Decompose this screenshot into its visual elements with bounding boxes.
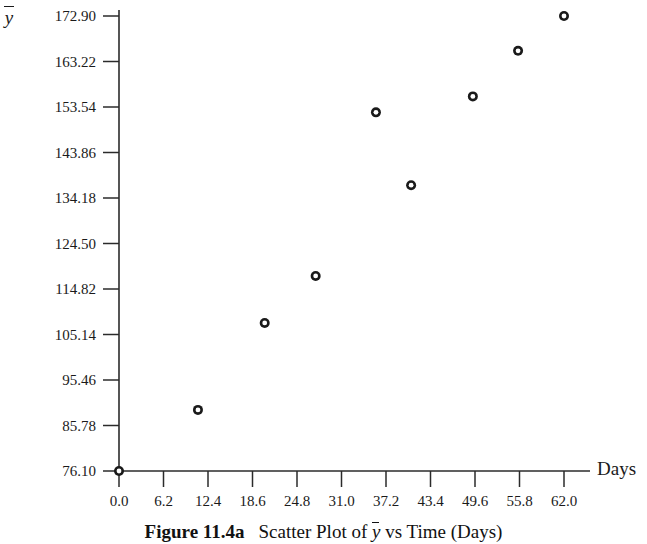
x-tick-label: 24.8 (284, 493, 310, 509)
figure-caption-label: Figure 11.4a (145, 521, 245, 542)
data-point (468, 91, 478, 101)
y-tick-label: 143.86 (55, 145, 97, 161)
y-tick-label: 163.22 (55, 54, 96, 70)
data-point (371, 107, 381, 117)
data-point-marker-inner (313, 274, 318, 279)
data-point (559, 11, 569, 21)
data-point (513, 46, 523, 56)
data-point (406, 180, 416, 190)
y-tick-label: 85.78 (62, 418, 96, 434)
y-tick-label: 95.46 (62, 372, 96, 388)
x-axis-ticks: 0.06.212.418.624.831.037.243.449.655.862… (110, 471, 578, 509)
x-tick-label: 18.6 (239, 493, 266, 509)
y-tick-label: 134.18 (55, 190, 96, 206)
y-tick-label: 153.54 (55, 99, 97, 115)
x-tick-label: 37.2 (373, 493, 399, 509)
data-point-marker-inner (117, 469, 122, 474)
data-point (311, 271, 321, 281)
figure-container: y Days 76.1085.7895.46105.14114.82124.50… (0, 0, 647, 544)
scatter-plot: 76.1085.7895.46105.14114.82124.50134.181… (0, 0, 647, 544)
y-axis-ticks: 76.1085.7895.46105.14114.82124.50134.181… (55, 8, 119, 479)
x-tick-label: 55.8 (506, 493, 532, 509)
figure-caption: Figure 11.4aScatter Plot of y vs Time (D… (0, 521, 647, 543)
data-point-marker-inner (470, 94, 475, 99)
data-point-marker-inner (562, 14, 567, 19)
data-point-marker-inner (374, 110, 379, 115)
y-tick-label: 124.50 (55, 236, 96, 252)
x-tick-label: 43.4 (417, 493, 444, 509)
figure-caption-ybar: y (372, 521, 380, 543)
x-tick-label: 62.0 (551, 493, 577, 509)
data-point-marker-inner (409, 183, 414, 188)
figure-caption-text-before: Scatter Plot of (259, 521, 372, 542)
x-tick-label: 31.0 (328, 493, 354, 509)
data-points (114, 11, 569, 476)
data-point-marker-inner (516, 48, 521, 53)
x-tick-label: 49.6 (462, 493, 489, 509)
figure-caption-text-after: vs Time (Days) (380, 521, 502, 542)
y-tick-label: 76.10 (62, 463, 96, 479)
data-point-marker-inner (196, 407, 201, 412)
y-tick-label: 114.82 (55, 281, 96, 297)
data-point-marker-inner (262, 321, 267, 326)
x-tick-label: 12.4 (195, 493, 222, 509)
data-point (193, 405, 203, 415)
y-tick-label: 105.14 (55, 327, 97, 343)
x-tick-label: 0.0 (110, 493, 129, 509)
x-tick-label: 6.2 (154, 493, 173, 509)
data-point (114, 466, 124, 476)
y-tick-label: 172.90 (55, 8, 96, 24)
data-point (260, 318, 270, 328)
